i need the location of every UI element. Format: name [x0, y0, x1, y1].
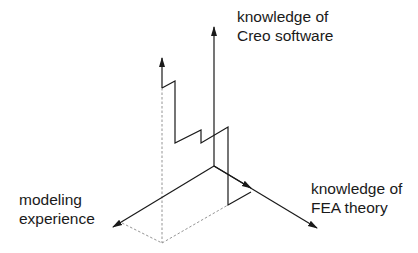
learning-path: [162, 58, 251, 205]
modeling-axis-label: modeling experience: [19, 190, 95, 228]
axes: [113, 27, 317, 228]
fea-label-line1: knowledge of: [311, 179, 402, 198]
modeling-label-line1: modeling: [19, 190, 95, 209]
creo-axis-label: knowledge of Creo software: [237, 7, 333, 45]
modeling-axis: [113, 166, 214, 227]
fea-axis-label: knowledge of FEA theory: [311, 179, 402, 217]
modeling-label-line2: experience: [19, 209, 95, 228]
creo-label-line1: knowledge of: [237, 7, 333, 26]
fea-label-line2: FEA theory: [311, 198, 402, 217]
fea-inner-arrow: [214, 166, 251, 188]
creo-label-line2: Creo software: [237, 26, 333, 45]
diagram-canvas: knowledge of Creo software modeling expe…: [0, 0, 418, 253]
staircase: [162, 81, 251, 205]
